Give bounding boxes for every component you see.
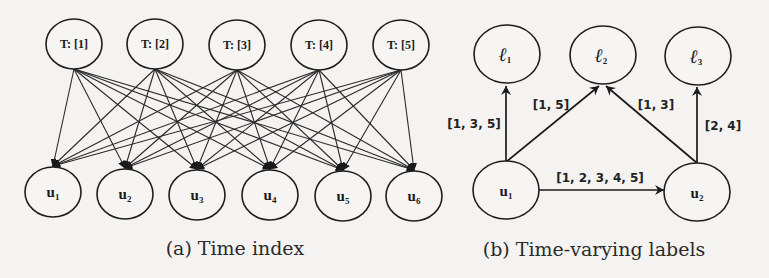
edge-t1-u1[interactable] — [53, 69, 74, 166]
time-nodes: T: [1] T: [2] T: [3] T: [4] T: [5] — [46, 19, 429, 70]
edge-t4-u6[interactable] — [319, 70, 414, 170]
caption-a: (a) Time index — [166, 237, 305, 259]
time-node-4[interactable]: T: [4] — [291, 20, 347, 70]
user-node-3[interactable]: u3 — [169, 170, 225, 220]
edge-t5-u6[interactable] — [401, 70, 414, 170]
panel-time-index: T: [1] T: [2] T: [3] T: [4] T: [5] — [25, 19, 442, 259]
edge-label-u1-u2: [1, 2, 3, 4, 5] — [556, 171, 644, 185]
edge-label-u1-l2: [1, 5] — [533, 98, 569, 112]
user-node-6[interactable]: u6 — [386, 171, 442, 221]
edge-t3-u6[interactable] — [237, 70, 414, 170]
edge-t1-u3[interactable] — [74, 69, 197, 169]
bipartite-edges — [53, 69, 414, 170]
label-node-3[interactable]: ℓ3 — [665, 27, 731, 85]
label-nodes: ℓ1 ℓ2 ℓ3 — [474, 25, 731, 85]
time-node-3[interactable]: T: [3] — [209, 20, 265, 70]
time-node-1[interactable]: T: [1] — [46, 19, 102, 69]
edge-t2-u3[interactable] — [155, 69, 197, 169]
user-nodes-b: u1 u2 — [473, 161, 730, 221]
time-node-label: T: [4] — [305, 38, 333, 52]
edge-t5-u3[interactable] — [197, 70, 401, 169]
label-node-2[interactable]: ℓ2 — [570, 26, 636, 84]
user-node-2[interactable]: u2 — [97, 169, 153, 219]
edge-t1-u5[interactable] — [74, 69, 343, 170]
edge-label-u2-l3: [2, 4] — [705, 119, 741, 133]
figure-canvas: T: [1] T: [2] T: [3] T: [4] T: [5] — [0, 0, 769, 278]
edge-label-u1-l1: [1, 3, 5] — [447, 117, 501, 131]
user-node-b-1[interactable]: u1 — [473, 161, 539, 219]
edge-t3-u1[interactable] — [53, 70, 237, 166]
edge-t4-u5[interactable] — [319, 70, 343, 170]
edge-t1-u6[interactable] — [74, 69, 414, 170]
edge-label-u2-l2: [1, 3] — [638, 98, 674, 112]
edge-t3-u3[interactable] — [197, 70, 237, 169]
user-node-1[interactable]: u1 — [25, 167, 81, 217]
user-node-4[interactable]: u4 — [242, 170, 298, 220]
time-node-label: T: [3] — [223, 38, 251, 52]
time-node-2[interactable]: T: [2] — [127, 19, 183, 69]
label-node-1[interactable]: ℓ1 — [474, 25, 540, 83]
edge-t5-u5[interactable] — [343, 70, 401, 170]
time-node-label: T: [2] — [141, 37, 169, 51]
time-node-label: T: [5] — [387, 38, 415, 52]
panel-time-varying-labels: [1, 3, 5] [1, 5] [1, 3] [2, 4] [1, 2, 3,… — [447, 25, 741, 260]
user-node-b-2[interactable]: u2 — [664, 163, 730, 221]
caption-b: (b) Time-varying labels — [483, 238, 706, 260]
time-node-label: T: [1] — [60, 37, 88, 51]
edge-t3-u2[interactable] — [125, 70, 237, 168]
edge-t2-u6[interactable] — [155, 69, 414, 170]
time-node-5[interactable]: T: [5] — [373, 20, 429, 70]
user-nodes: u1 u2 u3 u4 u5 u6 — [25, 167, 442, 221]
user-node-5[interactable]: u5 — [315, 171, 371, 221]
